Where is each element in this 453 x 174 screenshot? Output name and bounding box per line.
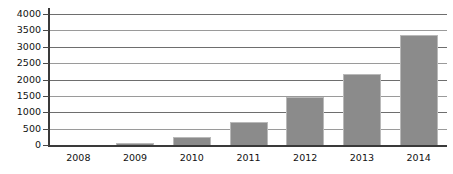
gridline-1000 <box>50 112 447 113</box>
y-axis-label: 3500 <box>0 25 41 35</box>
x-axis-label-2014: 2014 <box>391 152 447 163</box>
bar-2014 <box>400 35 438 145</box>
bar-2013 <box>343 74 381 145</box>
x-axis-label-2013: 2013 <box>334 152 390 163</box>
y-tick-3000 <box>43 47 49 48</box>
x-axis-label-2008: 2008 <box>50 152 106 163</box>
gridline-3500 <box>50 30 447 31</box>
y-axis-label: 2500 <box>0 58 41 68</box>
x-axis-label-2010: 2010 <box>164 152 220 163</box>
y-tick-2000 <box>43 80 49 81</box>
y-axis-label: 4000 <box>0 9 41 19</box>
y-tick-2500 <box>43 63 49 64</box>
y-axis-label: 1000 <box>0 107 41 117</box>
y-tick-0 <box>43 145 49 146</box>
y-axis-label: 3000 <box>0 42 41 52</box>
y-axis-line <box>48 8 50 147</box>
x-axis-labels: 2008200920102011201220132014 <box>0 152 453 168</box>
bar-2009 <box>116 143 154 145</box>
gridline-1500 <box>50 96 447 97</box>
bar-2012 <box>286 97 324 145</box>
gridline-3000 <box>50 47 447 48</box>
y-axis-label: 0 <box>0 140 41 150</box>
y-tick-4000 <box>43 14 49 15</box>
plot-area <box>50 8 447 145</box>
y-axis-label: 2000 <box>0 75 41 85</box>
y-axis-label: 500 <box>0 124 41 134</box>
y-tick-1000 <box>43 112 49 113</box>
x-axis-label-2012: 2012 <box>277 152 333 163</box>
bar-chart: 05001000150020002500300035004000 2008200… <box>0 0 453 174</box>
bar-2011 <box>230 122 268 145</box>
gridline-4000 <box>50 14 447 15</box>
x-axis-label-2011: 2011 <box>221 152 277 163</box>
x-axis-label-2009: 2009 <box>107 152 163 163</box>
bar-2010 <box>173 137 211 145</box>
y-axis-label: 1500 <box>0 91 41 101</box>
y-tick-3500 <box>43 30 49 31</box>
gridline-2000 <box>50 80 447 81</box>
gridline-0 <box>50 145 447 147</box>
y-tick-1500 <box>43 96 49 97</box>
y-tick-500 <box>43 129 49 130</box>
gridline-2500 <box>50 63 447 64</box>
